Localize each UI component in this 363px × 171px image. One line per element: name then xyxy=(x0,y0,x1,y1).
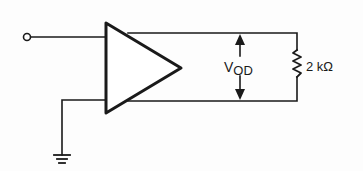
ground-icon xyxy=(54,155,70,163)
ground-wire xyxy=(62,100,106,155)
input-terminal xyxy=(24,34,31,41)
resistor-icon xyxy=(293,50,301,77)
resistor-value-label: 2 kΩ xyxy=(306,59,333,74)
schematic-svg: VOD 2 kΩ xyxy=(0,0,363,171)
amplifier-triangle xyxy=(106,23,181,113)
arrow-down-icon xyxy=(235,89,245,100)
output-wire-top xyxy=(128,33,297,50)
circuit-diagram: VOD 2 kΩ xyxy=(0,0,363,171)
arrow-up-icon xyxy=(235,34,245,45)
vod-label: VOD xyxy=(224,59,253,78)
